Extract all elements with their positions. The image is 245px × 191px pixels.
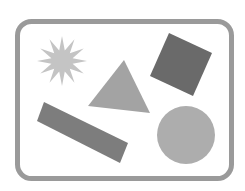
shapes-diagram [0,0,245,191]
circle-shape [157,106,215,164]
